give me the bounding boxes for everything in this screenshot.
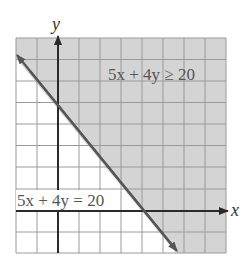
equation-label: 5x + 4y = 20 bbox=[17, 191, 104, 210]
y-axis-label: y bbox=[50, 14, 60, 34]
x-axis-label: x bbox=[230, 200, 239, 220]
inequality-label: 5x + 4y ≥ 20 bbox=[108, 65, 195, 84]
inequality-graph: y x 5x + 4y ≥ 20 5x + 4y = 20 bbox=[0, 0, 243, 269]
